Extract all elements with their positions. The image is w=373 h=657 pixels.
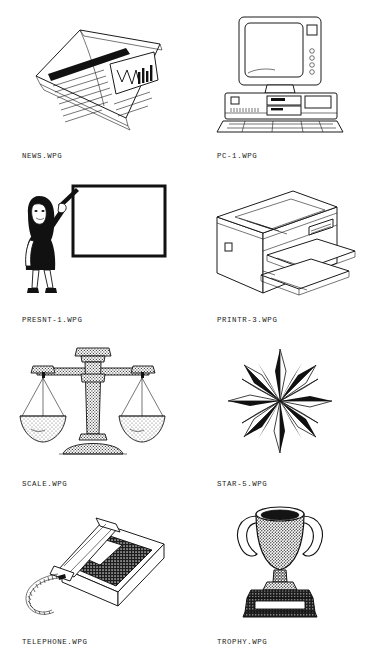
- clip-art-item[interactable]: TROPHY.WPG: [187, 494, 373, 657]
- clip-art-catalog-sheet: NEWS.WPG: [0, 0, 373, 657]
- clip-art-item[interactable]: NEWS.WPG: [0, 8, 186, 172]
- clip-art-item[interactable]: TELEPHONE.WPG: [0, 494, 186, 657]
- clip-art-item[interactable]: PRINTR-3.WPG: [187, 172, 373, 336]
- desktop-computer-illustration[interactable]: [187, 8, 373, 138]
- clip-art-label: PRESNT-1.WPG: [22, 317, 82, 324]
- clip-art-label: NEWS.WPG: [22, 153, 62, 160]
- clip-art-label: PC-1.WPG: [217, 153, 257, 160]
- laser-printer-illustration[interactable]: [187, 172, 373, 302]
- desk-telephone-illustration[interactable]: [0, 494, 186, 624]
- clip-art-item[interactable]: STAR-5.WPG: [187, 336, 373, 500]
- trophy-cup-illustration[interactable]: [187, 494, 373, 624]
- presenter-illustration[interactable]: [0, 172, 186, 302]
- clip-art-item[interactable]: PRESNT-1.WPG: [0, 172, 186, 336]
- clip-art-label: TELEPHONE.WPG: [22, 639, 87, 646]
- clip-art-item[interactable]: PC-1.WPG: [187, 8, 373, 172]
- clip-art-label: PRINTR-3.WPG: [217, 317, 277, 324]
- clip-art-label: TROPHY.WPG: [217, 639, 267, 646]
- balance-scale-illustration[interactable]: [0, 336, 186, 466]
- clip-art-item[interactable]: SCALE.WPG: [0, 336, 186, 500]
- clip-art-label: STAR-5.WPG: [217, 481, 267, 488]
- newspaper-illustration[interactable]: [0, 8, 186, 138]
- compass-star-illustration[interactable]: [187, 336, 373, 466]
- clip-art-label: SCALE.WPG: [22, 481, 67, 488]
